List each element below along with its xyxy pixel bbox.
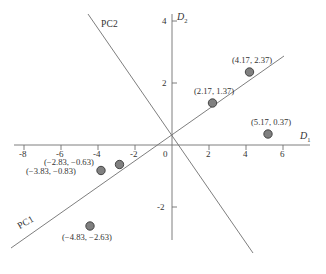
data-point-label: (2.17, 1.37): [194, 87, 234, 96]
data-point-marker: [97, 166, 105, 174]
x-tick-label-6: 6: [280, 150, 285, 159]
y-tick-label-4: 4: [162, 17, 167, 26]
x-tick-label-4: 4: [243, 150, 248, 159]
pca-scatter-figure: -8 -6 -4 -2 0 2 4 6 4 2 -2 D1 D2 PC2 PC1…: [0, 0, 326, 274]
data-point-label: (4.17, 2.37): [232, 56, 272, 65]
pc2-axis-line: [88, 14, 253, 253]
x-tick-label-zero: 0: [163, 150, 168, 159]
data-point-label: (−4.83, −2.63): [62, 233, 112, 242]
data-point-label: (5.17, 0.37): [251, 118, 291, 127]
x-axis-title: D1: [300, 131, 310, 144]
y-axis-title-subscript: 2: [184, 17, 187, 24]
y-tick-label-neg2: -2: [157, 203, 165, 212]
x-tick-label-neg4: -4: [93, 150, 101, 159]
x-tick-label-neg8: -8: [19, 150, 27, 159]
x-tick-label-neg2: -2: [130, 150, 138, 159]
y-axis-ticks: [172, 21, 177, 207]
pc2-line-label: PC2: [101, 20, 118, 30]
x-axis-title-subscript: 1: [307, 136, 310, 143]
plot-canvas: [0, 0, 326, 274]
data-point-marker: [245, 68, 253, 76]
data-point-marker: [264, 130, 272, 138]
data-point-label: (−3.83, −0.83): [26, 167, 76, 176]
data-point-marker: [86, 222, 94, 230]
y-tick-label-2: 2: [162, 79, 167, 88]
data-point-marker: [208, 99, 216, 107]
x-tick-label-2: 2: [206, 150, 211, 159]
data-point-marker: [115, 160, 123, 168]
y-axis-title: D2: [177, 12, 187, 25]
